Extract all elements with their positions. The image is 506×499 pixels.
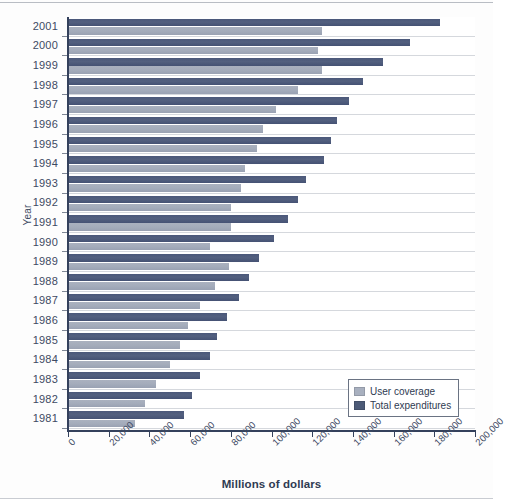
page-rule-top bbox=[0, 2, 493, 3]
bar-user-coverage bbox=[68, 165, 245, 172]
y-axis-label-1987: 1987 bbox=[0, 294, 58, 306]
y-axis-tick bbox=[62, 369, 67, 370]
bar-total-expenditures bbox=[68, 156, 324, 163]
bar-user-coverage bbox=[68, 86, 298, 93]
gridline bbox=[68, 94, 475, 95]
y-axis-label-1993: 1993 bbox=[0, 177, 58, 189]
bar-total-expenditures bbox=[68, 58, 383, 65]
y-axis-tick bbox=[62, 75, 67, 76]
y-axis-tick bbox=[62, 291, 67, 292]
y-axis-label-1998: 1998 bbox=[0, 79, 58, 91]
x-axis-label-0: 0 bbox=[66, 436, 78, 448]
gridline bbox=[68, 114, 475, 115]
y-axis-tick bbox=[62, 94, 67, 95]
bar-total-expenditures bbox=[68, 215, 288, 222]
gridline bbox=[68, 212, 475, 213]
bar-user-coverage bbox=[68, 282, 215, 289]
bar-user-coverage bbox=[68, 302, 200, 309]
y-axis-tick bbox=[62, 408, 67, 409]
y-axis-label-1994: 1994 bbox=[0, 157, 58, 169]
gridline bbox=[68, 350, 475, 351]
gridline bbox=[68, 232, 475, 233]
bar-total-expenditures bbox=[68, 274, 249, 281]
gridline bbox=[68, 36, 475, 37]
y-axis-label-1997: 1997 bbox=[0, 98, 58, 110]
y-axis-tick bbox=[62, 232, 67, 233]
y-axis-label-2001: 2001 bbox=[0, 20, 58, 32]
gridline bbox=[68, 193, 475, 194]
legend-label-user-coverage: User coverage bbox=[370, 386, 435, 397]
bar-user-coverage bbox=[68, 361, 170, 368]
chart-legend: User coverage Total expenditures bbox=[348, 379, 459, 417]
bar-total-expenditures bbox=[68, 254, 259, 261]
bar-user-coverage bbox=[68, 400, 145, 407]
bar-user-coverage bbox=[68, 184, 241, 191]
gridline bbox=[68, 271, 475, 272]
y-axis-label-1982: 1982 bbox=[0, 393, 58, 405]
bar-total-expenditures bbox=[68, 97, 349, 104]
y-axis-tick bbox=[62, 212, 67, 213]
bar-user-coverage bbox=[68, 106, 276, 113]
bar-total-expenditures bbox=[68, 352, 210, 359]
bar-total-expenditures bbox=[68, 78, 363, 85]
y-axis-tick bbox=[62, 330, 67, 331]
x-axis-label-200000: 200,000 bbox=[473, 415, 506, 448]
y-axis-tick bbox=[62, 114, 67, 115]
y-axis-label-1984: 1984 bbox=[0, 353, 58, 365]
plot-area bbox=[68, 17, 475, 429]
bar-user-coverage bbox=[68, 263, 229, 270]
bar-total-expenditures bbox=[68, 117, 337, 124]
y-axis-tick bbox=[62, 55, 67, 56]
y-axis-tick bbox=[62, 173, 67, 174]
bar-user-coverage bbox=[68, 243, 210, 250]
gridline bbox=[68, 55, 475, 56]
bar-total-expenditures bbox=[68, 333, 217, 340]
bar-total-expenditures bbox=[68, 176, 306, 183]
y-axis-tick bbox=[62, 193, 67, 194]
bar-user-coverage bbox=[68, 322, 188, 329]
y-axis-label-1986: 1986 bbox=[0, 314, 58, 326]
y-axis-tick bbox=[62, 310, 67, 311]
bar-user-coverage bbox=[68, 47, 318, 54]
bar-total-expenditures bbox=[68, 313, 227, 320]
bar-total-expenditures bbox=[68, 235, 274, 242]
gridline bbox=[68, 310, 475, 311]
y-axis-label-1996: 1996 bbox=[0, 118, 58, 130]
y-axis-tick bbox=[62, 251, 67, 252]
y-axis-label-1989: 1989 bbox=[0, 255, 58, 267]
y-axis-label-1985: 1985 bbox=[0, 334, 58, 346]
gridline bbox=[68, 251, 475, 252]
legend-swatch-total-expenditures bbox=[354, 401, 365, 410]
bar-user-coverage bbox=[68, 204, 231, 211]
bar-total-expenditures bbox=[68, 196, 298, 203]
y-axis-tick bbox=[62, 389, 67, 390]
gridline bbox=[68, 369, 475, 370]
bar-user-coverage bbox=[68, 125, 263, 132]
legend-item-total-expenditures: Total expenditures bbox=[354, 398, 451, 412]
y-axis-label-1990: 1990 bbox=[0, 236, 58, 248]
bar-total-expenditures bbox=[68, 39, 410, 46]
y-axis-tick bbox=[62, 428, 67, 429]
y-axis-label-1991: 1991 bbox=[0, 216, 58, 228]
gridline bbox=[68, 291, 475, 292]
y-axis-tick bbox=[62, 134, 67, 135]
y-axis-tick bbox=[62, 271, 67, 272]
legend-swatch-user-coverage bbox=[354, 387, 365, 396]
y-axis-tick bbox=[62, 36, 67, 37]
bar-user-coverage bbox=[68, 145, 257, 152]
y-axis-label-1999: 1999 bbox=[0, 59, 58, 71]
bar-user-coverage bbox=[68, 341, 180, 348]
gridline bbox=[68, 330, 475, 331]
y-axis-tick bbox=[62, 350, 67, 351]
gridline bbox=[68, 134, 475, 135]
bar-total-expenditures bbox=[68, 137, 331, 144]
gridline bbox=[68, 173, 475, 174]
bar-total-expenditures bbox=[68, 19, 440, 26]
bar-total-expenditures bbox=[68, 372, 200, 379]
bar-user-coverage bbox=[68, 66, 322, 73]
y-axis-label-1995: 1995 bbox=[0, 138, 58, 150]
y-axis-label-1988: 1988 bbox=[0, 275, 58, 287]
x-axis-title: Millions of dollars bbox=[68, 478, 475, 490]
gridline bbox=[68, 153, 475, 154]
